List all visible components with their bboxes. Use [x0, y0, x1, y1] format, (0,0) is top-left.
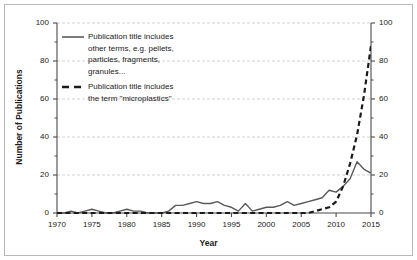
- series-line-1: [57, 162, 371, 213]
- y-axis-title: Number of Publications: [14, 57, 24, 177]
- y-tick-label-right-60: 60: [379, 94, 409, 103]
- y-tick-label-right-0: 0: [379, 208, 409, 217]
- legend-label-2-line-2: the term "microplastics": [88, 94, 171, 103]
- x-tick-label-2015: 2015: [351, 220, 391, 229]
- y-tick-label-right-80: 80: [379, 56, 409, 65]
- y-tick-label-left-40: 40: [19, 132, 49, 141]
- x-axis-title: Year: [0, 238, 417, 248]
- legend-label-1-line-4: granules...: [88, 67, 125, 76]
- y-tick-label-left-20: 20: [19, 170, 49, 179]
- figure: Number of Publications Year 002020404060…: [0, 0, 417, 260]
- y-tick-label-left-80: 80: [19, 56, 49, 65]
- y-tick-label-right-40: 40: [379, 132, 409, 141]
- legend-label-2-line-1: Publication title includes: [88, 82, 173, 91]
- y-tick-label-right-20: 20: [379, 170, 409, 179]
- legend-label-1-line-1: Publication title includes: [88, 32, 173, 41]
- y-tick-label-left-0: 0: [19, 208, 49, 217]
- y-tick-label-left-100: 100: [19, 18, 49, 27]
- y-tick-label-right-100: 100: [379, 18, 409, 27]
- y-tick-label-left-60: 60: [19, 94, 49, 103]
- legend-label-1-line-2: other terms, e.g. pellets,: [88, 44, 174, 53]
- legend-label-1-line-3: particles, fragments,: [88, 55, 160, 64]
